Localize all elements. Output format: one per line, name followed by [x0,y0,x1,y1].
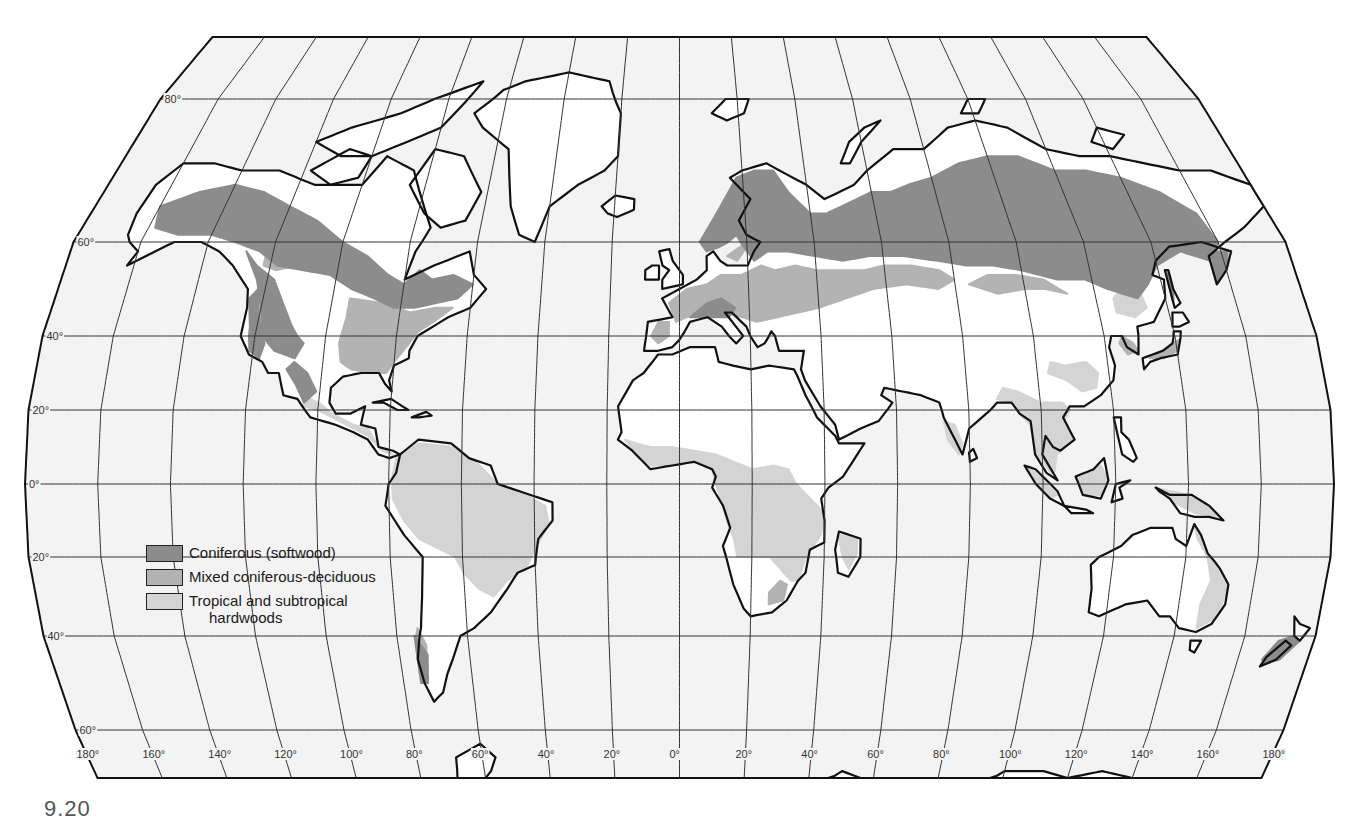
longitude-label: 120° [274,748,297,760]
longitude-label: 40° [538,748,555,760]
legend-sublabel: hardwoods [146,609,376,626]
longitude-label: 100° [999,748,1022,760]
legend-label: Tropical and subtropical [189,592,348,610]
latitude-label: 40° [47,330,64,342]
longitude-label: 80° [406,748,423,760]
legend-item-mixed: Mixed coniferous-deciduous [146,565,376,589]
longitude-label: 160° [1197,748,1220,760]
latitude-label: 60° [80,724,97,736]
figure-number: 9.20 [44,796,91,820]
latitude-label: 20° [33,551,50,563]
mixed-swatch [146,569,183,586]
longitude-label: 120° [1065,748,1088,760]
latitude-label: 60° [78,236,95,248]
longitude-label: 0° [670,748,681,760]
coniferous-swatch [146,545,183,562]
longitude-label: 20° [735,748,752,760]
longitude-label: 180° [1263,748,1286,760]
longitude-label: 20° [604,748,621,760]
legend-item-coniferous: Coniferous (softwood) [146,541,376,565]
longitude-label: 140° [208,748,231,760]
latitude-label: 40° [48,630,65,642]
longitude-label: 60° [867,748,884,760]
legend: Coniferous (softwood) Mixed coniferous-d… [146,541,376,626]
longitude-label: 160° [142,748,165,760]
longitude-label: 180° [77,748,100,760]
longitude-label: 100° [340,748,363,760]
legend-label: Mixed coniferous-deciduous [189,568,376,586]
legend-label: Coniferous (softwood) [189,544,336,562]
tropical-swatch [146,593,183,610]
longitude-label: 40° [801,748,818,760]
longitude-label: 60° [472,748,489,760]
longitude-label: 80° [933,748,950,760]
latitude-label: 80° [165,93,182,105]
longitude-label: 140° [1131,748,1154,760]
latitude-label: 0° [29,478,40,490]
latitude-label: 20° [33,404,50,416]
